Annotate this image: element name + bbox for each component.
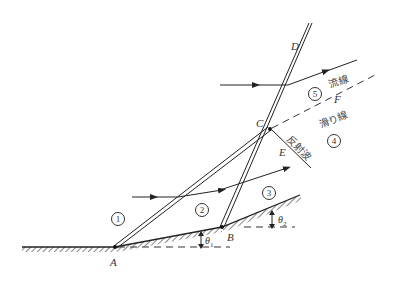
point-c-dot: [268, 127, 272, 131]
label-theta2: θ2: [278, 214, 286, 228]
region-5: 5: [308, 87, 322, 101]
label-point-c: C: [256, 117, 263, 129]
label-point-d: D: [291, 40, 299, 52]
label-point-a: A: [110, 256, 117, 268]
region-2: 2: [195, 203, 209, 217]
point-b-dot: [220, 225, 224, 229]
region-4: 4: [327, 134, 341, 148]
region-3: 3: [262, 186, 276, 200]
label-point-b: B: [227, 231, 234, 243]
wall-hatching: [22, 195, 302, 252]
label-theta1: θ1: [205, 235, 213, 249]
label-point-e: E: [279, 146, 286, 158]
region-1: 1: [111, 212, 125, 226]
label-point-f: F: [334, 93, 341, 105]
point-a-dot: [113, 245, 117, 249]
incident-shock-ac: [114, 127, 271, 248]
